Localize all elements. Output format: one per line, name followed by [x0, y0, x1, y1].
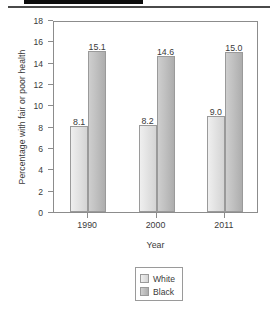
x-tick-mark	[156, 213, 157, 218]
bar-value-label: 14.6	[152, 47, 180, 57]
y-tick-label: 18	[33, 16, 43, 26]
y-tick: 0	[0, 208, 53, 218]
bar	[157, 56, 175, 212]
y-tick: 6	[0, 144, 53, 154]
x-tick-label: 2000	[126, 220, 186, 230]
y-tick-label: 6	[38, 144, 43, 154]
x-tick-mark	[224, 213, 225, 218]
y-tick-label: 12	[33, 80, 43, 90]
legend-item: Black	[140, 285, 182, 298]
y-tick-label: 14	[33, 59, 43, 69]
bar-value-label: 15.0	[220, 43, 248, 53]
legend-item: White	[140, 272, 182, 285]
legend-label: Black	[153, 287, 174, 297]
y-tick: 4	[0, 165, 53, 175]
y-tick: 18	[0, 16, 53, 26]
y-tick-label: 16	[33, 37, 43, 47]
y-tick: 10	[0, 101, 53, 111]
bar-chart-figure: Percentage with fair or poor health 0246…	[0, 0, 274, 317]
legend-swatch	[140, 287, 149, 296]
y-tick-label: 8	[38, 123, 43, 133]
x-axis-title: Year	[53, 240, 258, 250]
y-tick-label: 2	[38, 187, 43, 197]
y-tick: 12	[0, 80, 53, 90]
y-tick: 8	[0, 123, 53, 133]
y-tick-label: 4	[38, 165, 43, 175]
chart-legend: WhiteBlack	[135, 267, 183, 301]
bar	[207, 116, 225, 212]
y-tick: 16	[0, 37, 53, 47]
x-tick-label: 2011	[194, 220, 254, 230]
x-tick-label: 1990	[57, 220, 117, 230]
y-tick-label: 0	[38, 208, 43, 218]
bar	[225, 52, 243, 212]
legend-swatch	[140, 274, 149, 283]
y-tick-label: 10	[33, 101, 43, 111]
legend-label: White	[153, 274, 175, 284]
plot-area: 8.115.18.214.69.015.0	[53, 21, 258, 213]
x-tick-mark	[87, 213, 88, 218]
y-tick: 14	[0, 59, 53, 69]
bar	[139, 125, 157, 212]
bar	[70, 126, 88, 212]
bar-value-label: 15.1	[83, 42, 111, 52]
y-tick: 2	[0, 187, 53, 197]
bar	[88, 51, 106, 212]
